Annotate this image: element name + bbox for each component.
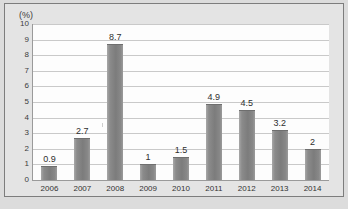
scan-artifact-speck [102, 123, 103, 127]
bar [74, 138, 90, 180]
y-axis-tick-label: 8 [25, 51, 29, 59]
bar-group: 4.5 [230, 24, 263, 180]
bar [305, 149, 321, 180]
bar [41, 166, 57, 180]
bar-value-label: 1.5 [175, 146, 188, 155]
x-axis-tick-label: 2012 [238, 185, 256, 193]
x-axis-tick-label: 2008 [106, 185, 124, 193]
bar [173, 157, 189, 180]
bar-group: 4.9 [197, 24, 230, 180]
x-axis-tick-label: 2010 [172, 185, 190, 193]
y-axis-tick-label: 2 [25, 145, 29, 153]
y-axis-tick-label: 6 [25, 82, 29, 90]
bar-group: 1.5 [165, 24, 198, 180]
bar [140, 164, 156, 180]
y-axis-tick-label: 7 [25, 67, 29, 75]
bar-chart-figure: (%) 012345678910 0.92.78.711.54.94.53.22… [0, 0, 348, 209]
x-axis-tick-label: 2009 [139, 185, 157, 193]
y-axis-tick-label: 3 [25, 129, 29, 137]
bar-value-label: 8.7 [109, 33, 122, 42]
x-axis-tick-label: 2006 [41, 185, 59, 193]
bar-value-label: 3.2 [273, 119, 286, 128]
x-axis-tick-label: 2013 [271, 185, 289, 193]
bar-group: 3.2 [263, 24, 296, 180]
bar-group: 8.7 [99, 24, 132, 180]
bar-value-label: 2 [310, 138, 315, 147]
bar-value-label: 4.9 [208, 93, 221, 102]
plot-area: 012345678910 0.92.78.711.54.94.53.22 200… [32, 24, 329, 181]
bar [272, 130, 288, 180]
bar-group: 1 [132, 24, 165, 180]
bar [107, 44, 123, 180]
bar-value-label: 0.9 [43, 155, 56, 164]
x-axis-tick-label: 2011 [205, 185, 222, 193]
y-axis-tick-label: 10 [20, 20, 29, 28]
y-axis-tick-label: 0 [25, 176, 29, 184]
x-axis-tick-label: 2014 [304, 185, 322, 193]
bar-group: 2 [296, 24, 329, 180]
bar [239, 110, 255, 180]
y-axis-tick-label: 5 [25, 98, 29, 106]
bar-value-label: 1 [146, 153, 151, 162]
x-axis-tick-label: 2007 [73, 185, 91, 193]
bar-value-label: 4.5 [241, 99, 254, 108]
y-axis-tick-label: 1 [25, 160, 29, 168]
bar-value-label: 2.7 [76, 127, 89, 136]
bar-group: 2.7 [66, 24, 99, 180]
bar [206, 104, 222, 180]
bar-group: 0.9 [33, 24, 66, 180]
y-axis-tick-label: 4 [25, 114, 29, 122]
y-axis-tick-label: 9 [25, 36, 29, 44]
